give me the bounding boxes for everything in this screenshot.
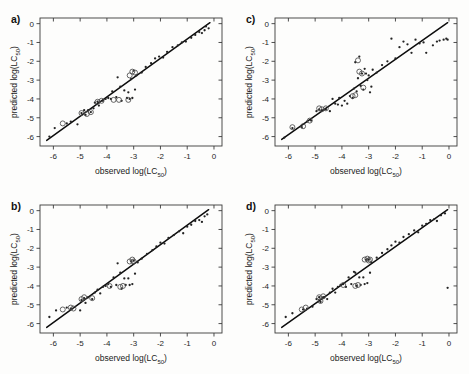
data-point-filled	[433, 218, 435, 220]
y-tick-label: -6	[27, 320, 35, 329]
data-point-filled	[92, 107, 94, 109]
y-tick-label: -5	[27, 301, 35, 310]
data-point-filled	[337, 103, 339, 105]
plot-frame	[40, 205, 222, 333]
panel-b-label: b)	[11, 200, 21, 212]
y-tick-label: -4	[262, 282, 270, 291]
data-point-filled	[446, 287, 448, 289]
panel-a: a) -6-5-4-3-2-100-1-2-3-4-5-6observed lo…	[0, 0, 234, 187]
data-point-filled	[66, 306, 68, 308]
x-axis-title: observed log(LC50)	[95, 353, 167, 365]
data-point-filled	[96, 101, 98, 103]
data-point-filled	[291, 312, 293, 314]
data-point-filled	[429, 219, 431, 221]
data-point-filled	[446, 39, 448, 41]
data-point-filled	[177, 44, 179, 46]
data-point-filled	[155, 245, 157, 247]
data-point-filled	[167, 237, 169, 239]
data-point-filled	[355, 90, 357, 92]
y-tick-label: -1	[262, 38, 270, 47]
data-point-filled	[111, 90, 113, 92]
data-point-filled	[104, 98, 106, 100]
y-tick-label: -1	[27, 38, 35, 47]
data-point-filled	[394, 57, 396, 59]
panel-c: c) -6-5-4-3-2-100-1-2-3-4-5-6observed lo…	[235, 0, 469, 187]
x-tick-label: -4	[338, 152, 346, 161]
panel-d: d) -6-5-4-3-2-100-1-2-3-4-5-6observed lo…	[235, 187, 469, 374]
data-point-filled	[422, 41, 424, 43]
x-axis-title: observed log(LC50)	[330, 353, 402, 365]
panel-b: b) -6-5-4-3-2-100-1-2-3-4-5-6observed lo…	[0, 187, 234, 374]
data-point-filled	[394, 241, 396, 243]
data-point-filled	[190, 37, 192, 39]
y-axis-title-tail: )	[9, 233, 19, 236]
data-point-filled	[413, 229, 415, 231]
data-point-filled	[322, 296, 324, 298]
data-point-filled	[203, 29, 205, 31]
data-point-open	[60, 307, 65, 312]
x-tick-label: -1	[184, 152, 192, 161]
y-tick-label: -1	[262, 225, 270, 234]
data-point-filled	[285, 316, 287, 318]
y-axis-title: predicted log(LC50)	[9, 46, 21, 118]
x-tick-label: -5	[312, 152, 320, 161]
data-point-filled	[158, 55, 160, 57]
data-point-filled	[150, 62, 152, 64]
data-point-filled	[369, 272, 371, 274]
y-tick-label: -2	[27, 244, 35, 253]
y-tick-label: -4	[27, 95, 35, 104]
data-point-filled	[381, 64, 383, 66]
x-tick-label: 0	[212, 152, 217, 161]
data-point-filled	[402, 236, 404, 238]
y-tick-label: -6	[27, 133, 35, 142]
y-tick-label: 0	[265, 20, 270, 29]
data-point-filled	[181, 41, 183, 43]
data-point-filled	[368, 74, 370, 76]
data-point-filled	[116, 76, 118, 78]
data-point-filled	[123, 277, 125, 279]
data-point-filled	[436, 40, 438, 42]
data-point-filled	[438, 39, 440, 41]
x-tick-label: -3	[365, 152, 373, 161]
data-point-filled	[84, 302, 86, 304]
data-point-filled	[182, 232, 184, 234]
data-point-filled	[178, 230, 180, 232]
data-point-filled	[203, 215, 205, 217]
data-point-filled	[440, 214, 442, 216]
data-point-filled	[127, 277, 129, 279]
data-point-filled	[343, 100, 345, 102]
data-point-filled	[398, 242, 400, 244]
data-point-filled	[329, 291, 331, 293]
data-point-open	[355, 58, 360, 63]
data-point-filled	[283, 136, 285, 138]
x-tick-label: 0	[212, 339, 217, 348]
data-point-filled	[291, 127, 293, 129]
data-point-filled	[87, 296, 89, 298]
y-tick-label: -2	[27, 57, 35, 66]
data-point-filled	[98, 104, 100, 106]
data-point-filled	[364, 283, 366, 285]
regression-line	[47, 23, 210, 141]
plot-frame	[40, 18, 222, 146]
x-tick-label: -6	[50, 339, 58, 348]
data-point-filled	[381, 252, 383, 254]
data-point-open	[60, 121, 65, 126]
data-point-filled	[350, 283, 352, 285]
y-axis-title: predicted log(LC50)	[244, 233, 256, 305]
data-point-filled	[70, 120, 72, 122]
x-tick-label: -5	[77, 152, 85, 161]
x-tick-label: 0	[447, 152, 452, 161]
y-axis-title-tail: )	[9, 46, 19, 49]
data-point-filled	[131, 283, 133, 285]
x-tick-label: -1	[184, 339, 192, 348]
x-tick-label: -4	[103, 339, 111, 348]
data-point-open	[116, 97, 121, 102]
panel-d-label: d)	[246, 200, 256, 212]
panel-d-plot: -6-5-4-3-2-100-1-2-3-4-5-6observed log(L…	[235, 187, 469, 374]
y-axis-title-tail: )	[244, 233, 254, 236]
data-point-filled	[358, 276, 360, 278]
data-point-filled	[186, 226, 188, 228]
data-point-filled	[390, 244, 392, 246]
data-point-filled	[119, 86, 121, 88]
data-point-filled	[432, 44, 434, 46]
